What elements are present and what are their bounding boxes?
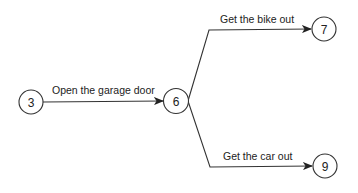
edge-open-garage-door: Open the garage door — [43, 84, 163, 102]
node-label: 3 — [28, 96, 35, 110]
node-3: 3 — [19, 90, 43, 114]
edge-line — [188, 29, 311, 101]
node-label: 9 — [322, 160, 329, 174]
node-6: 6 — [164, 89, 189, 114]
edge-label-get-bike-out: Get the bike out — [220, 13, 294, 25]
node-9: 9 — [313, 154, 337, 178]
node-label: 6 — [173, 95, 180, 109]
edge-get-bike-out: Get the bike out — [188, 13, 311, 101]
edge-label-get-car-out: Get the car out — [223, 150, 293, 162]
node-7: 7 — [312, 17, 336, 41]
node-label: 7 — [321, 23, 328, 37]
edge-line — [43, 101, 163, 102]
activity-diagram: Open the garage door Get the bike out Ge… — [0, 0, 358, 193]
edge-get-car-out: Get the car out — [188, 101, 312, 167]
edge-label-open-garage-door: Open the garage door — [52, 84, 155, 96]
